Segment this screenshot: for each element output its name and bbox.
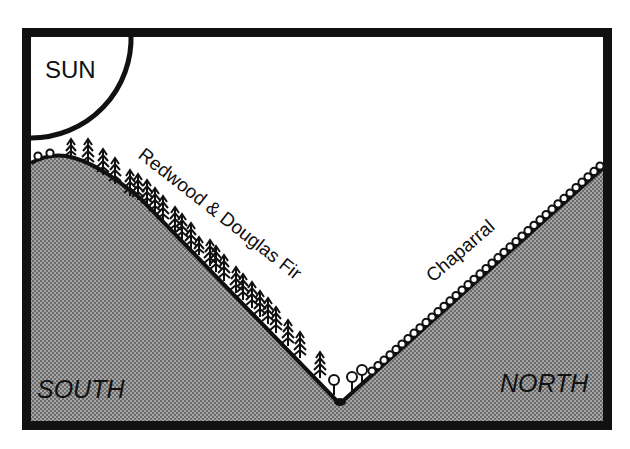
north-label: NORTH [500,369,589,397]
shrub-icon [596,162,603,169]
valley-diagram: SUN Redwood & Douglas Fir Chaparral SOUT… [0,0,630,449]
south-label: SOUTH [37,375,125,403]
sun-label: SUN [45,56,96,83]
valley-bottom-stream [334,398,346,406]
sun-icon [31,34,131,138]
